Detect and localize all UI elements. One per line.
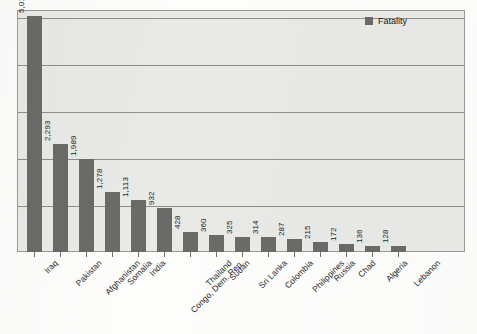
bar-value-label: 287 [277,176,286,236]
bar-value-label: 2,293 [43,81,52,141]
x-axis-label: Iraq [42,258,59,275]
legend: Fatality [365,16,407,26]
bar-value-label: 932 [147,145,156,205]
x-axis-tick [112,252,113,257]
bar-value-label: 215 [303,179,312,239]
bar[interactable] [339,244,354,252]
bar-value-label: 360 [199,172,208,232]
x-axis-tick [34,252,35,257]
bar[interactable] [313,242,328,252]
x-axis-label: Algeria [384,258,410,284]
bar[interactable] [27,16,42,252]
x-axis-label-layer: IraqPakistanAfghanistanSomaliaIndiaCongo… [17,258,477,334]
bar-value-label: 428 [173,169,182,229]
bar[interactable] [209,235,224,252]
fatality-bar-chart: 5,0162,2931,9891,2781,113932428360325314… [0,0,477,334]
x-axis-label: Chad [356,258,377,279]
legend-label-fatality: Fatality [378,16,407,26]
x-axis-tick [86,252,87,257]
x-axis-tick [294,252,295,257]
x-axis-tick [268,252,269,257]
bars-layer: 5,0162,2931,9891,2781,113932428360325314… [17,10,465,252]
bar-value-label: 1,989 [69,96,78,156]
x-axis-tick [398,252,399,257]
bar[interactable] [183,232,198,252]
x-axis-tick [346,252,347,257]
bar[interactable] [261,237,276,252]
bar-value-label: 325 [225,174,234,234]
x-axis-tick [190,252,191,257]
bar[interactable] [131,200,146,252]
x-axis-tick [164,252,165,257]
x-axis-tick [320,252,321,257]
x-axis-tick [138,252,139,257]
bar[interactable] [79,159,94,252]
bar[interactable] [235,237,250,252]
legend-swatch-fatality [365,17,373,25]
x-axis-label: Lebanon [412,258,442,288]
bar[interactable] [157,208,172,252]
bar-value-label: 1,113 [121,137,130,197]
bar[interactable] [105,192,120,252]
bar-value-label: 5,016 [17,0,26,13]
bar-group[interactable]: 1,278 [100,10,126,252]
bar-group[interactable]: 128 [386,10,412,252]
bar[interactable] [53,144,68,252]
x-axis-tick [60,252,61,257]
bar-value-label: 136 [355,183,364,243]
bar-group[interactable]: 1,113 [126,10,152,252]
bar-value-label: 314 [251,174,260,234]
bar-value-label: 172 [329,181,338,241]
x-axis-label: Pakistan [74,258,104,288]
x-axis-tick [372,252,373,257]
x-axis-tick [242,252,243,257]
bar-value-label: 128 [381,183,390,243]
bar-value-label: 1,278 [95,129,104,189]
x-axis-tick [216,252,217,257]
bar[interactable] [287,239,302,252]
